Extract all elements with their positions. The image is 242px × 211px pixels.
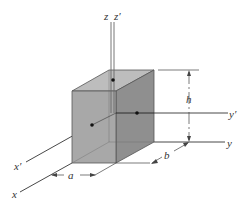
x-axis	[20, 163, 72, 192]
z-label: z	[103, 10, 109, 22]
x-label: x	[11, 188, 17, 200]
y-label: y	[226, 137, 232, 149]
front-face	[72, 91, 116, 163]
centroid-dot-top	[111, 78, 115, 82]
block-diagram: z z′ y′ y x′ x h b a	[0, 0, 242, 211]
b-label: b	[164, 149, 170, 161]
b-arrow-right	[183, 142, 189, 147]
a-extension-right	[95, 163, 116, 175]
centroid-dot-x-prime	[90, 123, 94, 127]
centroid-dot-y-prime	[135, 111, 139, 115]
a-arrow-left	[51, 173, 57, 177]
x-prime-label: x′	[13, 160, 22, 172]
h-arrow-bottom	[187, 136, 191, 142]
y-prime-label: y′	[228, 108, 237, 120]
h-arrow-top	[187, 70, 191, 76]
z-prime-label: z′	[113, 10, 121, 22]
h-label: h	[186, 93, 192, 105]
a-arrow-right	[90, 173, 96, 177]
a-label: a	[68, 169, 74, 181]
